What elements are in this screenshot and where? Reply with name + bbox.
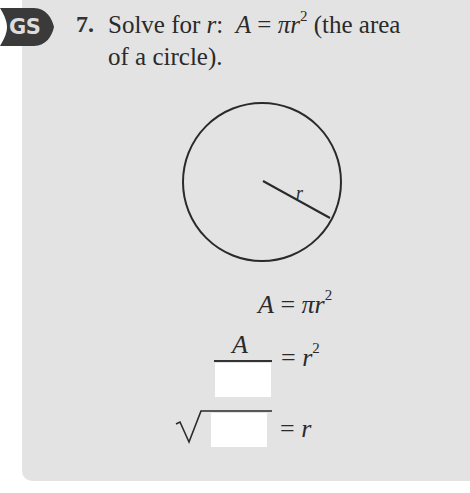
step-3-var: r xyxy=(301,414,311,443)
step-3-eq: = xyxy=(280,414,295,443)
step-3-rhs: = r xyxy=(280,414,311,444)
radicand-answer-box[interactable] xyxy=(211,413,267,447)
